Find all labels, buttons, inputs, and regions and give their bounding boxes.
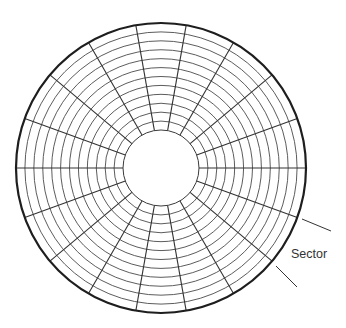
sector-line [197,118,298,155]
sector-line [25,118,126,155]
leader-line [276,266,297,287]
disk-diagram: Sector [0,0,346,328]
leader-line [302,219,331,231]
sector-line [180,42,234,135]
sector-line [50,75,132,144]
sector-line [197,181,298,218]
sector-line [89,201,143,294]
sector-label: Sector [291,247,327,261]
sector-line [50,192,132,261]
sector-line [25,181,126,218]
sector-line [180,201,234,294]
spindle-hole [123,130,199,206]
sector-line [190,75,272,144]
sector-line [190,192,272,261]
sector-line [89,42,143,135]
